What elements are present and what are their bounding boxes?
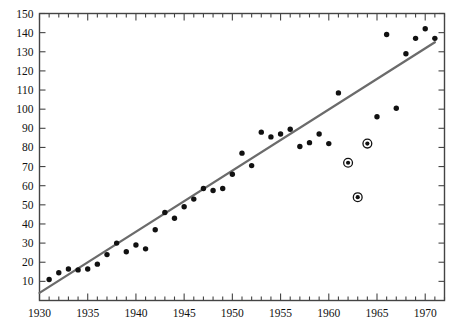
- data-point: [201, 186, 206, 191]
- data-point: [114, 240, 119, 245]
- data-point: [181, 204, 186, 209]
- x-tick-label: 1955: [269, 307, 292, 319]
- y-tick-label: 130: [16, 46, 34, 58]
- data-point: [75, 267, 80, 272]
- y-tick-label: 20: [22, 256, 34, 268]
- data-point: [220, 186, 225, 191]
- trend-line: [40, 42, 435, 293]
- data-point: [162, 210, 167, 215]
- data-point: [210, 188, 215, 193]
- y-tick-label: 50: [22, 199, 34, 211]
- x-tick-label: 1960: [317, 307, 340, 319]
- data-point: [172, 216, 177, 221]
- data-point: [259, 129, 264, 134]
- x-tick-label: 1945: [173, 307, 196, 319]
- y-tick-label: 40: [22, 218, 34, 230]
- data-point: [191, 196, 196, 201]
- data-point: [143, 246, 148, 251]
- y-tick-label: 80: [22, 141, 34, 153]
- data-point: [46, 277, 51, 282]
- data-point: [85, 266, 90, 271]
- data-point: [423, 26, 428, 31]
- data-point: [239, 150, 244, 155]
- x-tick-label: 1950: [221, 307, 244, 319]
- y-tick-label: 90: [22, 122, 34, 134]
- plot-area: 1930193519401945195019551960196519701020…: [0, 0, 458, 330]
- y-tick-label: 10: [22, 275, 34, 287]
- scatter-chart: 1930193519401945195019551960196519701020…: [0, 0, 458, 330]
- data-point: [95, 261, 100, 266]
- data-point: [56, 270, 61, 275]
- data-point: [307, 140, 312, 145]
- data-point: [326, 141, 331, 146]
- y-tick-label: 100: [16, 103, 34, 115]
- data-point: [403, 51, 408, 56]
- data-point: [413, 36, 418, 41]
- data-point: [316, 131, 321, 136]
- data-point: [133, 242, 138, 247]
- data-point: [394, 106, 399, 111]
- y-tick-label: 70: [22, 161, 34, 173]
- x-tick-label: 1940: [124, 307, 147, 319]
- data-point-highlighted: [356, 195, 360, 199]
- x-tick-label: 1970: [414, 307, 437, 319]
- data-point: [432, 36, 437, 41]
- y-tick-label: 150: [16, 8, 34, 20]
- data-point: [288, 127, 293, 132]
- x-tick-label: 1935: [76, 307, 99, 319]
- data-point: [278, 131, 283, 136]
- data-point: [230, 172, 235, 177]
- x-tick-label: 1930: [28, 307, 51, 319]
- data-point-highlighted: [346, 161, 350, 165]
- x-tick-label: 1965: [366, 307, 389, 319]
- data-point: [124, 249, 129, 254]
- data-point: [384, 32, 389, 37]
- data-point-highlighted: [365, 142, 369, 146]
- y-tick-label: 30: [22, 237, 34, 249]
- y-tick-label: 140: [16, 27, 34, 39]
- y-tick-label: 110: [17, 84, 34, 96]
- y-tick-label: 120: [16, 65, 34, 77]
- data-point: [268, 134, 273, 139]
- data-point: [104, 252, 109, 257]
- data-point: [249, 163, 254, 168]
- data-point: [374, 114, 379, 119]
- plot-frame: [40, 14, 445, 301]
- data-point: [66, 266, 71, 271]
- data-point: [297, 144, 302, 149]
- data-point: [336, 90, 341, 95]
- data-point: [153, 227, 158, 232]
- y-tick-label: 60: [22, 180, 34, 192]
